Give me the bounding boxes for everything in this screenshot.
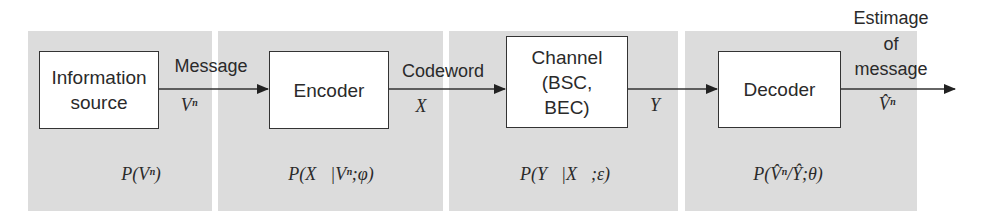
edge-label-estimate-line1: Estimage	[853, 8, 928, 29]
distribution-decoder: P(V̂ⁿ/Ŷ;θ)	[753, 164, 823, 185]
block-channel: Channel(BSC,BEC)	[506, 36, 628, 128]
distribution-source: P(Vⁿ)	[121, 164, 161, 185]
distribution-channel: P(Y⃗|X⃗;ε)	[520, 164, 610, 185]
edge-label-estimate-line3: message	[854, 59, 927, 80]
edge-symbol-x: X⃗	[416, 96, 441, 117]
block-information-source: Informationsource	[39, 51, 159, 129]
block-label-line: BEC)	[544, 97, 589, 118]
edge-symbol-vhat-n: V̂ⁿ	[879, 94, 896, 115]
block-label: Encoder	[294, 78, 365, 103]
block-label-line: Channel	[532, 47, 603, 68]
edge-label-message: Message	[174, 56, 247, 77]
block-label-line: (BSC,	[542, 72, 593, 93]
block-decoder: Decoder	[718, 51, 841, 128]
block-label-line: source	[70, 92, 127, 113]
block-label-line: Information	[51, 67, 146, 88]
edge-label-estimate-line2: of	[883, 34, 898, 55]
block-encoder: Encoder	[269, 51, 389, 129]
edge-symbol-vn: Vⁿ	[181, 95, 198, 116]
edge-label-codeword: Codeword	[402, 61, 484, 82]
block-label: Decoder	[744, 77, 816, 102]
distribution-encoder: P(X⃗|Vⁿ;φ)	[288, 164, 374, 185]
edge-symbol-y: Y⃗	[650, 95, 674, 116]
